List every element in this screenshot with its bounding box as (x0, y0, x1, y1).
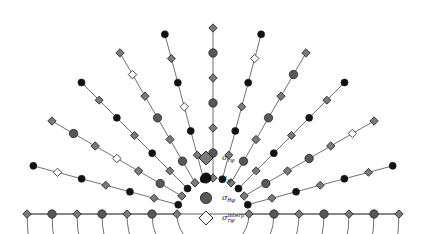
node-sigma-theta-phi (148, 210, 156, 218)
node-sigma-r-phi (327, 142, 335, 150)
node-sigma-r-phi (91, 142, 99, 150)
node-sigma-r-phi-interp (180, 103, 188, 111)
node-sigma-r-phi-interp (250, 54, 258, 62)
node-u-phi (245, 79, 252, 86)
node-u-phi (389, 162, 396, 169)
node-sigma-r-phi (178, 192, 186, 200)
node-sigma-r-phi (123, 210, 131, 218)
node-u-phi (174, 79, 181, 86)
node-sigma-theta-phi (320, 210, 328, 218)
legend-label-sigma-r-phi-interp: σinterprφ (222, 213, 244, 224)
node-sigma-r-phi (277, 92, 285, 100)
circle-black-icon (196, 168, 216, 188)
diamond-white-icon (196, 208, 216, 228)
node-u-phi (341, 175, 348, 182)
node-sigma-r-phi (173, 210, 181, 218)
node-sigma-r-phi (209, 24, 217, 32)
node-sigma-r-phi (23, 210, 31, 218)
node-sigma-r-phi (209, 74, 217, 82)
node-sigma-r-phi (150, 194, 158, 202)
node-sigma-theta-phi (178, 157, 186, 165)
node-sigma-theta-phi (289, 70, 297, 78)
legend-item-sigma-r-phi-interp: σinterprφ (196, 208, 316, 228)
node-sigma-r-phi (141, 92, 149, 100)
node-u-phi (78, 175, 85, 182)
node-sigma-r-phi-interp (53, 168, 61, 176)
node-u-phi (232, 127, 239, 134)
node-sigma-r-phi (395, 210, 403, 218)
node-sigma-r-phi (370, 117, 378, 125)
node-sigma-r-phi (238, 103, 246, 111)
node-sigma-r-phi (365, 168, 373, 176)
node-sigma-theta-phi (370, 210, 378, 218)
node-sigma-r-phi (134, 167, 142, 175)
node-sigma-r-phi (48, 117, 56, 125)
node-sigma-theta-phi (48, 210, 56, 218)
node-u-phi (161, 31, 168, 38)
node-u-phi (30, 162, 37, 169)
node-sigma-theta-phi (209, 49, 217, 57)
node-u-phi (306, 114, 313, 121)
node-sigma-r-phi-interp (113, 154, 121, 162)
node-u-phi (341, 79, 348, 86)
node-u-phi (78, 79, 85, 86)
node-sigma-r-phi (252, 135, 260, 143)
diamond-gray-icon (196, 148, 216, 168)
node-u-phi (258, 31, 265, 38)
node-sigma-r-phi (73, 210, 81, 218)
legend-label-sigma-r-phi: σrφ (222, 154, 235, 163)
node-sigma-r-phi (102, 181, 110, 189)
legend-item-sigma-r-phi: σrφ (196, 148, 316, 168)
node-u-phi (126, 188, 133, 195)
node-sigma-theta-phi (209, 99, 217, 107)
node-sigma-r-phi (166, 135, 174, 143)
node-u-phi (187, 127, 194, 134)
node-sigma-r-phi (167, 54, 175, 62)
node-sigma-theta-phi (98, 210, 106, 218)
node-sigma-r-phi-interp (128, 70, 136, 78)
node-u-phi (149, 150, 156, 157)
node-u-phi (184, 185, 191, 192)
node-sigma-theta-phi (153, 114, 161, 122)
node-sigma-theta-phi (69, 129, 77, 137)
circle-gray-icon (196, 188, 216, 208)
legend: σrφ uφ σθφ σinterprφ (196, 148, 316, 228)
legend-label-sigma-theta-phi: σθφ (222, 194, 235, 203)
node-sigma-r-phi (302, 49, 310, 57)
node-sigma-r-phi (316, 181, 324, 189)
node-sigma-theta-phi (156, 179, 164, 187)
node-sigma-theta-phi (264, 114, 272, 122)
legend-label-u-phi: uφ (222, 174, 231, 183)
node-sigma-r-phi (209, 124, 217, 132)
node-sigma-r-phi (345, 210, 353, 218)
node-sigma-r-phi-interp (348, 129, 356, 137)
legend-item-sigma-theta-phi: σθφ (196, 188, 316, 208)
node-u-phi (175, 201, 182, 208)
node-sigma-r-phi (116, 49, 124, 57)
legend-item-u-phi: uφ (196, 168, 316, 188)
node-u-phi (113, 114, 120, 121)
